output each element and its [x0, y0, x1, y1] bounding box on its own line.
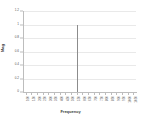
y-tick-label: 0.4 [7, 63, 19, 66]
x-tick-label: 1050 [135, 96, 138, 103]
x-tick-label: 200 [39, 96, 42, 101]
frequency-magnitude-chart: 00.20.40.60.811.2 1001502002503003504004… [0, 0, 141, 120]
y-tick-label: 0.8 [7, 36, 19, 39]
x-tick-label: 900 [118, 96, 121, 101]
x-tick-label: 100 [27, 96, 30, 101]
y-tick-mark [20, 38, 23, 39]
gridline [23, 25, 136, 26]
x-tick-mark [94, 92, 95, 95]
x-tick-label: 500 [72, 96, 75, 101]
y-tick-label: 0.2 [7, 77, 19, 80]
x-tick-label: 650 [89, 96, 92, 101]
x-tick-label: 1000 [129, 96, 132, 103]
gridline [23, 38, 136, 39]
x-tick-label: 550 [78, 96, 81, 101]
x-tick-mark [26, 92, 27, 95]
x-tick-mark [82, 92, 83, 95]
y-tick-mark [20, 65, 23, 66]
y-tick-mark [20, 11, 23, 12]
x-tick-mark [71, 92, 72, 95]
gridline [23, 52, 136, 53]
x-tick-mark [37, 92, 38, 95]
x-tick-mark [60, 92, 61, 95]
gridline [23, 79, 136, 80]
x-tick-label: 400 [61, 96, 64, 101]
x-tick-mark [99, 92, 100, 95]
x-tick-label: 700 [95, 96, 98, 101]
gridline [23, 65, 136, 66]
x-tick-mark [122, 92, 123, 95]
x-tick-mark [128, 92, 129, 95]
y-tick-mark [20, 78, 23, 79]
data-spike [77, 25, 78, 93]
x-axis-line [23, 92, 137, 93]
x-tick-mark [54, 92, 55, 95]
x-tick-label: 850 [112, 96, 115, 101]
x-tick-mark [105, 92, 106, 95]
x-tick-mark [65, 92, 66, 95]
y-tick-mark [20, 92, 23, 93]
x-tick-label: 300 [50, 96, 53, 101]
y-tick-label: 1 [7, 23, 19, 26]
gridline [23, 11, 136, 12]
x-tick-mark [116, 92, 117, 95]
y-tick-label: 1.2 [7, 9, 19, 12]
plot-area [23, 11, 136, 92]
y-axis-line [23, 11, 24, 92]
y-tick-mark [20, 51, 23, 52]
x-tick-mark [43, 92, 44, 95]
x-tick-mark [48, 92, 49, 95]
x-tick-label: 150 [33, 96, 36, 101]
x-tick-label: 800 [106, 96, 109, 101]
y-tick-label: 0.6 [7, 50, 19, 53]
x-tick-mark [31, 92, 32, 95]
y-tick-mark [20, 24, 23, 25]
x-tick-label: 450 [67, 96, 70, 101]
x-tick-label: 350 [55, 96, 58, 101]
x-tick-mark [77, 92, 78, 95]
x-tick-label: 600 [84, 96, 87, 101]
x-tick-label: 950 [123, 96, 126, 101]
x-axis-title: Frequency [0, 110, 141, 114]
y-tick-label: 0 [7, 90, 19, 93]
x-tick-mark [111, 92, 112, 95]
x-tick-label: 750 [101, 96, 104, 101]
x-tick-label: 250 [44, 96, 47, 101]
x-tick-mark [88, 92, 89, 95]
x-tick-mark [133, 92, 134, 95]
y-axis-title: Mag [1, 37, 5, 59]
